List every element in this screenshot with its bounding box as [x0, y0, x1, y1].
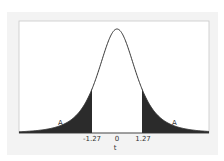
- tick-label-pos: 1.27: [135, 135, 151, 143]
- tick-label-neg: -1.27: [83, 135, 101, 143]
- t-distribution-chart: A A -1.27 0 1.27 t: [0, 0, 224, 161]
- tick-label-zero: 0: [115, 135, 119, 143]
- left-tail-label: A: [58, 119, 63, 127]
- right-tail-label: A: [172, 119, 177, 127]
- plot-area: [19, 21, 209, 133]
- x-axis-label: t: [114, 144, 117, 152]
